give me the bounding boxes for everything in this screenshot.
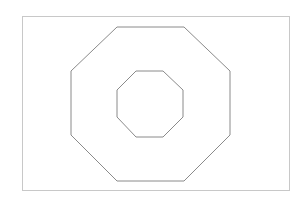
outer-octagon — [71, 27, 230, 181]
frame-rectangle — [23, 17, 290, 191]
diagram-canvas — [0, 0, 307, 199]
inner-octagon — [117, 71, 183, 137]
